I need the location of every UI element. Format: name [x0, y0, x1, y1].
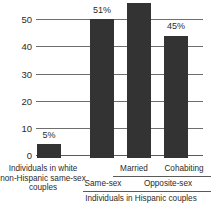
bar-label-white-non-hispanic-same-sex: 5% — [42, 131, 55, 140]
ytick-label-40: 40 — [21, 43, 32, 53]
rule-hispanic-couples — [83, 191, 211, 192]
bar-label-hispanic-opposite-sex-cohabiting: 45% — [167, 22, 185, 31]
rule-opposite-sex-subgroups — [113, 176, 211, 177]
ytick-label-50: 50 — [21, 15, 32, 25]
bar-chart: 50 40 30 20 10 0 5% 51% 45% Individuals … — [0, 0, 216, 220]
bar-white-non-hispanic-same-sex — [37, 144, 61, 158]
gridline-50: 50 — [36, 19, 203, 20]
plot-area: 50 40 30 20 10 0 5% 51% 45% — [36, 8, 203, 158]
group-label-cohabiting: Cohabiting — [156, 164, 212, 174]
ytick-label-10: 10 — [21, 124, 32, 134]
group-label-same-sex: Same-sex — [82, 179, 124, 189]
bar-label-hispanic-same-sex: 51% — [93, 6, 111, 15]
bar-hispanic-opposite-sex-married — [127, 3, 151, 158]
ytick-label-20: 20 — [21, 97, 32, 107]
bar-hispanic-same-sex — [90, 19, 114, 158]
group-label-married: Married — [112, 164, 156, 174]
bar-hispanic-opposite-sex-cohabiting — [164, 36, 188, 159]
axis-label-group: Individuals in white non-Hispanic same-s… — [0, 158, 216, 220]
ytick-label-30: 30 — [21, 70, 32, 80]
group-label-hispanic-couples: Individuals in Hispanic couples — [70, 194, 212, 204]
group-label-white-non-hispanic: Individuals in white non-Hispanic same-s… — [0, 164, 86, 193]
group-label-opposite-sex: Opposite-sex — [124, 179, 212, 189]
